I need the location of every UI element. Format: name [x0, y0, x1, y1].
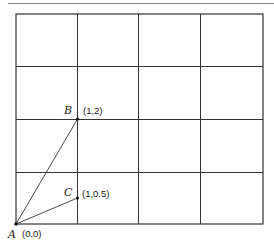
- point-c-name: C: [64, 186, 73, 199]
- coordinate-grid-diagram: B (1,2) C (1,0.5) A (0,0): [0, 0, 274, 249]
- point-c-coord: (1,0.5): [82, 188, 109, 199]
- segment-ab: [16, 119, 78, 224]
- point-b-name: B: [63, 104, 72, 117]
- point-b: [76, 117, 79, 120]
- segments: [16, 119, 78, 224]
- point-c: [76, 196, 79, 199]
- point-a-coord: (0,0): [22, 228, 42, 239]
- point-a: [14, 222, 18, 226]
- grid: [16, 14, 263, 224]
- segment-ac: [16, 198, 78, 224]
- point-a-name: A: [7, 228, 16, 241]
- point-b-coord: (1,2): [83, 105, 103, 116]
